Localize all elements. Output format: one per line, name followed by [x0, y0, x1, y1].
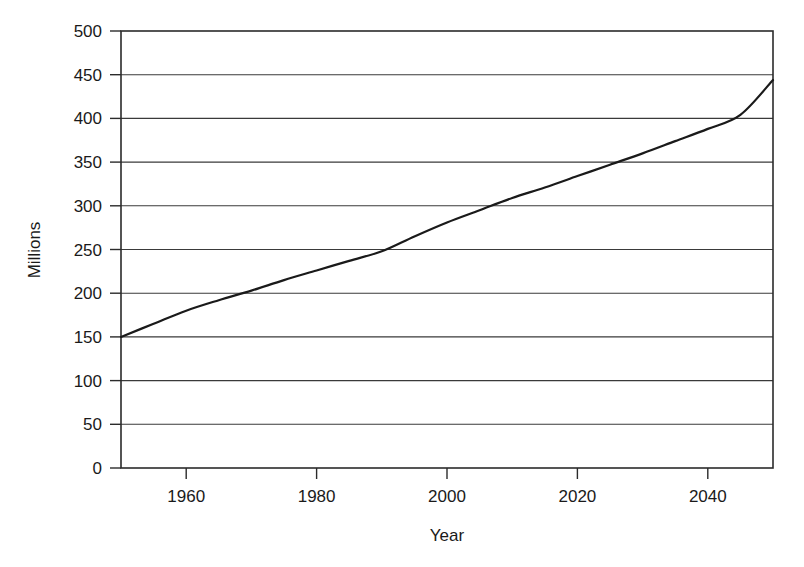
- x-tick-label: 2040: [689, 487, 727, 506]
- y-tick-label: 500: [74, 22, 102, 41]
- x-tick-label: 2020: [558, 487, 596, 506]
- y-tick-label: 250: [74, 241, 102, 260]
- y-tick-label: 400: [74, 109, 102, 128]
- chart-container: 050100150200250300350400450500 196019802…: [0, 0, 804, 567]
- y-tick-label: 50: [83, 415, 102, 434]
- x-tick-label: 1960: [167, 487, 205, 506]
- x-tick-label: 2000: [428, 487, 466, 506]
- y-tick-label: 450: [74, 66, 102, 85]
- y-tick-label: 300: [74, 197, 102, 216]
- y-axis-title: Millions: [25, 222, 44, 279]
- y-tick-label: 0: [93, 459, 102, 478]
- y-tick-label: 350: [74, 153, 102, 172]
- y-tick-label: 150: [74, 328, 102, 347]
- x-axis-title: Year: [430, 526, 465, 545]
- x-tick-label: 1980: [298, 487, 336, 506]
- y-tick-label: 100: [74, 372, 102, 391]
- y-tick-label: 200: [74, 284, 102, 303]
- line-chart: 050100150200250300350400450500 196019802…: [0, 0, 804, 567]
